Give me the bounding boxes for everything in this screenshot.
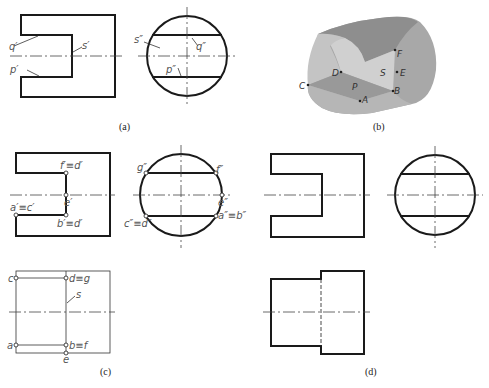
a-leader-p2 bbox=[178, 68, 181, 76]
label-q-prime: q′ bbox=[9, 41, 18, 52]
label-b-d-prime: b′≡d′ bbox=[57, 218, 83, 229]
pt-a-top bbox=[14, 343, 18, 347]
label-c-d-dprime: c″≡d″ bbox=[124, 218, 152, 229]
label-g-dprime: g″ bbox=[137, 162, 147, 173]
label-p-prime: p′ bbox=[9, 64, 19, 75]
d-front-outline bbox=[271, 154, 364, 237]
label-b-f: b≡f bbox=[69, 340, 89, 351]
label-e: e bbox=[63, 354, 69, 365]
label-a-c-prime: a′≡c′ bbox=[10, 202, 35, 213]
label-d-g: d≡g bbox=[69, 273, 90, 284]
label-s-dprime: s″ bbox=[134, 34, 143, 45]
a-leader-s bbox=[73, 47, 82, 52]
point-a bbox=[359, 100, 362, 103]
pt-c-top bbox=[14, 276, 18, 280]
label-e-prime: e′ bbox=[64, 197, 73, 208]
label-a: a bbox=[7, 340, 13, 351]
panel-b: C D A B F E S P (b) bbox=[299, 17, 436, 133]
caption-d: (d) bbox=[365, 366, 377, 378]
label-E: E bbox=[400, 68, 406, 78]
label-f-dprime: f″ bbox=[216, 164, 224, 175]
point-f bbox=[394, 49, 397, 52]
a-leader-s2 bbox=[144, 42, 160, 48]
caption-a: (a) bbox=[119, 121, 130, 133]
label-q-dprime: q″ bbox=[196, 41, 206, 52]
label-s: s bbox=[76, 289, 81, 300]
label-A: A bbox=[361, 95, 368, 105]
point-c bbox=[307, 84, 310, 87]
label-C: C bbox=[299, 81, 306, 91]
d-top-outline bbox=[271, 271, 364, 354]
label-a-b-dprime: a″≡b″ bbox=[218, 210, 247, 221]
panel-c: f′≡d′ e′ a′≡c′ b′≡d′ g″ f″ e″ c″≡d″ a″≡b… bbox=[7, 145, 247, 378]
pt-b-d-front bbox=[64, 213, 68, 217]
pt-d-g-top bbox=[64, 276, 68, 280]
label-B: B bbox=[394, 86, 400, 96]
projection-diagram: q′ p′ s′ s″ q″ p″ (a) C bbox=[0, 0, 489, 388]
label-c: c bbox=[8, 273, 14, 284]
label-s-prime: s′ bbox=[82, 40, 90, 51]
label-D: D bbox=[332, 68, 339, 78]
point-d bbox=[340, 71, 343, 74]
label-F: F bbox=[397, 49, 403, 59]
label-S: S bbox=[380, 68, 386, 78]
caption-c: (c) bbox=[100, 366, 111, 378]
pt-f-d-front bbox=[64, 171, 68, 175]
pt-b-f-top bbox=[64, 343, 68, 347]
panel-d: (d) bbox=[263, 146, 483, 378]
panel-a: q′ p′ s′ s″ q″ p″ (a) bbox=[9, 7, 236, 133]
c-leader-s bbox=[67, 296, 75, 303]
label-e-dprime: e″ bbox=[218, 197, 228, 208]
caption-b: (b) bbox=[373, 121, 385, 133]
label-f-d-prime: f′≡d′ bbox=[60, 160, 84, 171]
pt-a-c-front bbox=[14, 213, 18, 217]
label-P: P bbox=[352, 82, 358, 92]
a-leader-p bbox=[27, 70, 39, 76]
point-e bbox=[396, 71, 399, 74]
label-p-dprime: p″ bbox=[165, 64, 176, 75]
